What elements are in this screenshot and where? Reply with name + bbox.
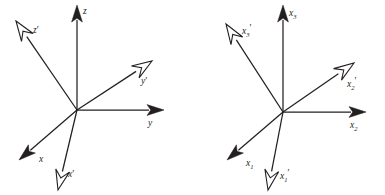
x2-prime-axis-label: x2′	[346, 76, 357, 91]
z-prime-axis-arrowhead	[16, 21, 33, 41]
x-axis-line	[30, 110, 77, 150]
x3-axis-label: x3	[288, 8, 297, 20]
right-panel: x3 x2 x1 x3′ x2′ x1′	[226, 5, 366, 190]
x2-prime-axis-arrowhead	[334, 63, 354, 80]
x1-axis-arrowhead	[227, 145, 243, 160]
y-axis-arrowhead	[147, 105, 164, 116]
x2-prime-axis: x2′	[283, 63, 357, 112]
x3-axis: x3	[278, 5, 298, 112]
x2-axis-label: x2	[349, 120, 358, 132]
x1-axis-label: x1	[245, 158, 254, 170]
x3-prime-axis-arrowhead	[226, 24, 243, 45]
x-prime-axis-line	[62, 110, 77, 172]
y-axis-label: y	[147, 118, 153, 128]
x-axis-arrowhead	[19, 145, 35, 160]
x3-prime-axis: x3′	[226, 23, 283, 112]
x2-prime-axis-line	[283, 74, 338, 112]
x2-axis: x2	[283, 107, 366, 132]
z-prime-axis-label: z′	[32, 25, 39, 35]
z-axis-label: z	[82, 6, 87, 16]
z-axis: z	[72, 5, 87, 110]
y-prime-axis-line	[77, 71, 136, 110]
x3-prime-axis-label: x3′	[241, 23, 252, 38]
x2-axis-arrowhead	[349, 107, 366, 118]
y-prime-axis: y′	[77, 61, 152, 110]
coordinate-axes-figure: z y x z′ y′ x′	[0, 0, 385, 195]
left-panel: z y x z′ y′ x′	[16, 5, 164, 190]
z-prime-axis: z′	[16, 21, 77, 110]
x-axis-label: x	[38, 154, 44, 164]
y-prime-axis-label: y′	[140, 76, 147, 86]
x-axis: x	[19, 110, 77, 164]
x1-axis: x1	[227, 112, 283, 170]
x-prime-axis-label: x′	[67, 169, 74, 179]
x1-prime-axis-label: x1′	[279, 168, 290, 183]
z-axis-arrowhead	[72, 5, 83, 22]
x-prime-axis: x′	[56, 110, 77, 190]
figure-canvas: z y x z′ y′ x′	[0, 0, 385, 195]
y-axis: y	[77, 105, 164, 128]
x3-prime-axis-line	[236, 40, 283, 112]
x3-axis-arrowhead	[278, 5, 289, 22]
z-prime-axis-line	[27, 37, 77, 110]
x1-prime-axis-arrowhead	[265, 169, 279, 190]
